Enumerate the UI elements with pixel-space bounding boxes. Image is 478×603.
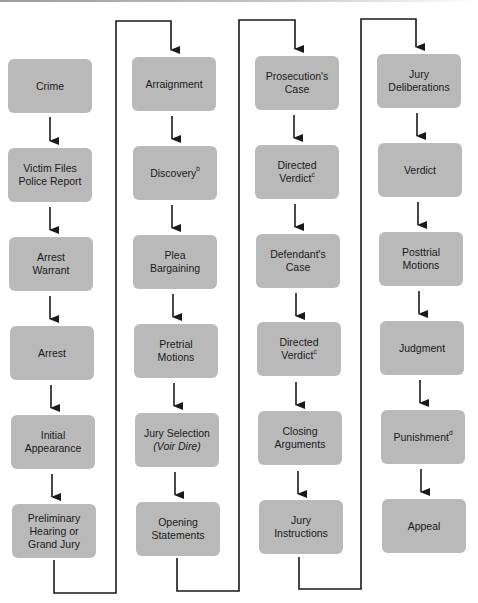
step-label: OpeningStatements <box>151 516 204 542</box>
step-judgment: Judgment <box>380 321 464 375</box>
step-label: Jury Selection(Voir Dire) <box>144 427 210 453</box>
footnote-marker: c <box>313 348 316 355</box>
step-label: Crime <box>36 80 64 93</box>
step-label: Victim FilesPolice Report <box>18 162 81 188</box>
step-prosecutions-case: Prosecution'sCase <box>255 56 339 110</box>
label-line: Deliberations <box>388 81 449 93</box>
step-label: DirectedVerdictc <box>277 159 316 185</box>
step-closing-arguments: ClosingArguments <box>258 411 342 465</box>
label-line: Arguments <box>275 438 326 450</box>
step-label: PosttrialMotions <box>402 246 440 272</box>
step-label: DirectedVerdictc <box>279 336 318 362</box>
label-line: Prosecution's <box>266 70 329 82</box>
label-line: Statements <box>151 529 204 541</box>
step-pretrial-motions: PretrialMotions <box>134 324 218 378</box>
label-line: Verdict <box>279 172 311 184</box>
step-punishment: Punishmentd <box>381 410 465 464</box>
step-label: JuryInstructions <box>274 514 328 540</box>
step-initial-appearance: InitialAppearance <box>11 415 95 469</box>
label-line: Jury <box>291 514 311 526</box>
step-label: Judgment <box>399 342 445 355</box>
step-label: Punishmentd <box>393 431 452 444</box>
label-line: Pretrial <box>159 338 192 350</box>
step-arrest-warrant: ArrestWarrant <box>9 237 93 291</box>
step-label: InitialAppearance <box>25 429 82 455</box>
step-verdict: Verdict <box>378 143 462 197</box>
step-discovery: Discoveryb <box>133 146 217 200</box>
label-line: Directed <box>277 159 316 171</box>
label-line: Punishment <box>393 431 448 443</box>
step-label: ClosingArguments <box>275 425 326 451</box>
step-label: PretrialMotions <box>158 338 195 364</box>
step-label: Arraignment <box>145 78 202 91</box>
label-line: Posttrial <box>402 246 440 258</box>
label-line: Case <box>286 261 311 273</box>
label-line: Plea <box>164 249 185 261</box>
label-line: Preliminary <box>28 512 81 524</box>
label-line: Jury <box>409 68 429 80</box>
label-line: Warrant <box>33 264 70 276</box>
step-directed-verdict-2: DirectedVerdictc <box>257 322 341 376</box>
step-plea-bargaining: PleaBargaining <box>133 235 217 289</box>
step-arraignment: Arraignment <box>132 57 216 111</box>
step-label: PreliminaryHearing orGrand Jury <box>28 512 81 551</box>
label-line: Instructions <box>274 527 328 539</box>
label-line: Victim Files <box>23 162 76 174</box>
step-arrest: Arrest <box>10 326 94 380</box>
step-directed-verdict-1: DirectedVerdictc <box>255 145 339 199</box>
label-line: Hearing or <box>29 525 78 537</box>
step-crime: Crime <box>8 59 92 113</box>
label-line: Jury Selection <box>144 427 210 439</box>
label-line: Police Report <box>18 175 81 187</box>
step-label: Prosecution'sCase <box>266 70 329 96</box>
label-line: Grand Jury <box>28 538 80 550</box>
label-line: Arrest <box>37 251 65 263</box>
step-label: ArrestWarrant <box>33 251 70 277</box>
footnote-marker: c <box>311 171 314 178</box>
label-line: Initial <box>41 429 66 441</box>
step-label: Arrest <box>38 347 66 360</box>
step-label: Appeal <box>408 520 441 533</box>
step-posttrial-motions: PosttrialMotions <box>379 232 463 286</box>
step-label: Defendant'sCase <box>270 248 326 274</box>
label-line: Appearance <box>25 442 82 454</box>
label-line: Opening <box>158 516 198 528</box>
step-jury-instructions: JuryInstructions <box>259 500 343 554</box>
label-line: Motions <box>158 351 195 363</box>
step-label: JuryDeliberations <box>388 68 449 94</box>
label-line: Closing <box>282 425 317 437</box>
step-jury-deliberations: JuryDeliberations <box>377 54 461 108</box>
label-line: (Voir Dire) <box>153 440 200 452</box>
label-line: Directed <box>279 336 318 348</box>
label-line: Bargaining <box>150 262 200 274</box>
label-line: Defendant's <box>270 248 326 260</box>
step-label: Verdict <box>404 164 436 177</box>
label-line: Discovery <box>150 167 196 179</box>
step-jury-selection-voir-dire: Jury Selection(Voir Dire) <box>135 413 219 467</box>
step-preliminary-hearing-or-grand-jury: PreliminaryHearing orGrand Jury <box>12 504 96 558</box>
step-defendants-case: Defendant'sCase <box>256 234 340 288</box>
step-label: Discoveryb <box>150 167 200 180</box>
label-line: Motions <box>403 259 440 271</box>
label-line: Verdict <box>281 349 313 361</box>
step-opening-statements: OpeningStatements <box>136 502 220 556</box>
label-line: Case <box>285 83 310 95</box>
step-appeal: Appeal <box>382 499 466 553</box>
footnote-marker: d <box>449 429 453 436</box>
step-label: PleaBargaining <box>150 249 200 275</box>
step-victim-files-police-report: Victim FilesPolice Report <box>8 148 92 202</box>
footnote-marker: b <box>196 165 200 172</box>
